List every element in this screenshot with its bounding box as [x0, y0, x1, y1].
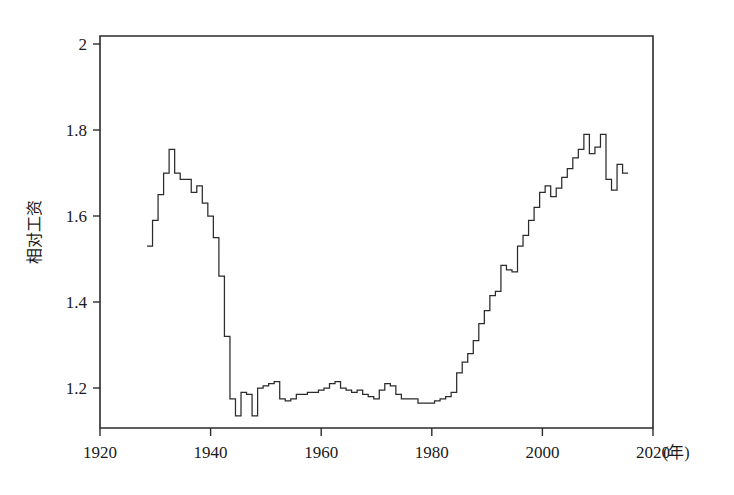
x-tick-label: 1940	[194, 443, 228, 462]
x-tick-label: 1960	[304, 443, 338, 462]
y-tick-label: 1.4	[66, 293, 88, 312]
x-axis-ticks: 192019401960198020002020	[83, 428, 670, 462]
series-line-relative-wage	[147, 134, 628, 416]
data-series-group	[147, 134, 628, 416]
x-tick-label: 1980	[415, 443, 449, 462]
y-axis-ticks: 1.21.41.61.82	[66, 35, 100, 398]
y-axis-label-text: 相对工资	[26, 200, 43, 264]
plot-frame	[100, 36, 653, 428]
y-axis-label: 相对工资	[26, 200, 43, 264]
x-tick-label: 2000	[525, 443, 559, 462]
line-chart-svg: 1.21.41.61.82 192019401960198020002020 相…	[0, 0, 734, 495]
x-tick-label: 1920	[83, 443, 117, 462]
y-tick-label: 1.8	[66, 121, 87, 140]
x-axis-unit-label: (年)	[663, 444, 690, 462]
y-tick-label: 1.2	[66, 379, 87, 398]
y-tick-label: 1.6	[66, 207, 87, 226]
y-tick-label: 2	[79, 35, 88, 54]
chart-figure: 1.21.41.61.82 192019401960198020002020 相…	[0, 0, 734, 495]
